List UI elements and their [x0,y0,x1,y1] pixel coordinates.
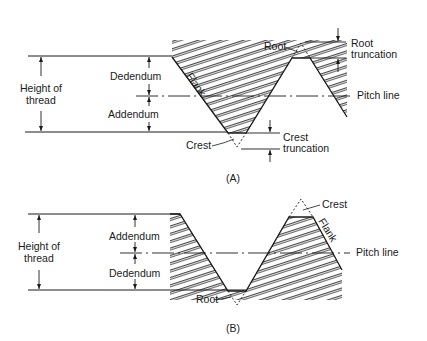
caption-a: (A) [226,172,240,184]
pitch-line-label-a: Pitch line [357,89,400,101]
crest-label-a: Crest [186,139,211,151]
caption-b: (B) [226,322,240,334]
thread-material-b [170,214,342,300]
root-truncation-label-2: truncation [351,48,397,60]
height-of-thread-label-a: Height of [20,82,62,94]
height-of-thread-label-b-2: thread [24,252,54,264]
dedendum-label-a: Dedendum [110,70,162,82]
crest-leader-a [212,139,234,146]
root-label-b: Root [196,293,218,305]
height-of-thread-label-b: Height of [18,240,60,252]
addendum-label-b: Addendum [109,230,160,242]
addendum-label-a: Addendum [108,108,159,120]
crest-label-b: Crest [322,198,347,210]
dedendum-label-b: Dedendum [109,267,161,279]
height-of-thread-label-a-2: thread [26,94,56,106]
root-label-a: Root [264,40,286,52]
figure-a: Height of thread Dedendum Addendum Flank… [20,28,400,184]
figure-b: Height of thread Addendum Dedendum Crest… [18,198,399,334]
crest-truncation-label-2: truncation [283,142,329,154]
pitch-line-label-b: Pitch line [356,246,399,258]
thread-terminology-diagram: Height of thread Dedendum Addendum Flank… [0,0,427,341]
